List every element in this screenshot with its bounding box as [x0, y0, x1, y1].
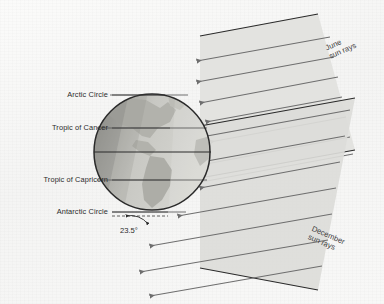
- label-arctic-circle: Arctic Circle: [12, 90, 108, 99]
- sun-rays-diagram: Arctic Circle Tropic of Cancer Tropic of…: [0, 0, 384, 304]
- axial-tilt-value: 23.5°: [120, 226, 138, 235]
- label-tropic-of-cancer: Tropic of Cancer: [6, 123, 108, 132]
- axial-tilt-indicator: [112, 216, 168, 224]
- label-tropic-of-capricorn: Tropic of Capricorn: [0, 175, 108, 184]
- label-antarctic-circle: Antarctic Circle: [6, 207, 108, 216]
